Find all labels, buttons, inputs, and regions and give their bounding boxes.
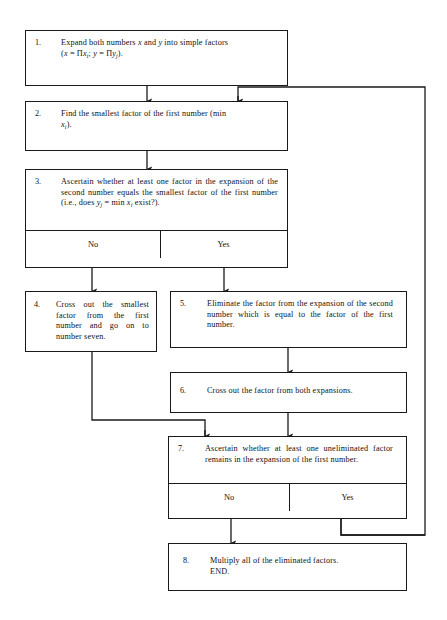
step5-number: 5. — [180, 299, 186, 310]
step5-text: Eliminate the factor from the expansion … — [207, 299, 393, 331]
step3-text-part-a: Ascertain whether at least one factor in… — [61, 177, 278, 207]
flowchart-node-step2[interactable]: 2. Find the smallest factor of the first… — [25, 101, 288, 151]
step1-formula-eq1: = Π — [68, 49, 83, 58]
connector-step7-yes-to-return-loop — [341, 519, 425, 535]
flowchart-node-step5[interactable]: 5. Eliminate the factor from the expansi… — [170, 291, 407, 348]
step8-text-line1: Multiply all of the eliminated factors. — [210, 556, 339, 565]
step2-text-part-a: Find the smallest factor of the first nu… — [61, 109, 226, 118]
step3-answer-no[interactable]: No — [26, 231, 160, 258]
step3-text-part-c: exist?). — [132, 198, 159, 207]
flowchart-canvas: 1. Expand both numbers x and y into simp… — [0, 0, 447, 620]
step8-number: 8. — [183, 556, 189, 567]
step3-answer-row: No Yes — [26, 230, 287, 258]
step1-number: 1. — [35, 38, 41, 49]
flowchart-node-step1[interactable]: 1. Expand both numbers x and y into simp… — [25, 30, 288, 86]
flowchart-node-step7[interactable]: 7. Ascertain whether at least one unelim… — [168, 436, 407, 519]
step4-text: Cross out the smallest factor from the f… — [56, 300, 149, 342]
step8-text: Multiply all of the eliminated factors. … — [210, 556, 397, 577]
step7-answer-row: No Yes — [169, 483, 406, 511]
step1-text-part-a: Expand both numbers — [61, 38, 138, 47]
flowchart-node-step6[interactable]: 6. Cross out the factor from both expans… — [170, 372, 407, 413]
step7-text: Ascertain whether at least one unelimina… — [205, 444, 393, 465]
step1-formula-close: ). — [118, 49, 123, 58]
step6-text: Cross out the factor from both expansion… — [207, 386, 397, 397]
step3-answer-yes[interactable]: Yes — [160, 231, 286, 258]
step4-number: 4. — [34, 300, 40, 311]
step1-formula-eq2: = Π — [97, 49, 112, 58]
step6-number: 6. — [180, 386, 186, 397]
step1-text-part-b: and — [142, 38, 159, 47]
flowchart-node-step8[interactable]: 8. Multiply all of the eliminated factor… — [168, 543, 407, 591]
step2-text-close: ). — [67, 120, 72, 129]
step7-answer-yes[interactable]: Yes — [289, 484, 405, 511]
step7-number: 7. — [178, 444, 184, 455]
flowchart-node-step4[interactable]: 4. Cross out the smallest factor from th… — [25, 291, 157, 352]
step3-text-part-b: = min — [102, 198, 127, 207]
step3-text: Ascertain whether at least one factor in… — [61, 177, 278, 209]
step7-answer-no[interactable]: No — [169, 484, 289, 511]
step1-text-part-c: into simple factors — [162, 38, 228, 47]
flowchart-node-step3[interactable]: 3. Ascertain whether at least one factor… — [25, 169, 288, 268]
step1-text: Expand both numbers x and y into simple … — [61, 38, 278, 59]
step2-text: Find the smallest factor of the first nu… — [61, 109, 278, 130]
step3-number: 3. — [35, 177, 41, 188]
step2-number: 2. — [35, 109, 41, 120]
step8-text-line2: END. — [210, 567, 229, 576]
